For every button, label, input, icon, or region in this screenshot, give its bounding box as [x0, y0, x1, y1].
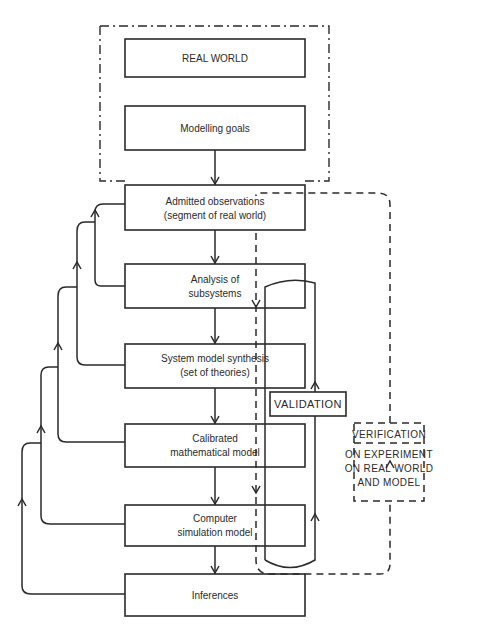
box-computer-simulation: Computer simulation model: [125, 505, 305, 546]
feedback-lines: [18, 204, 125, 594]
box-inferences: Inferences: [125, 574, 305, 616]
box-modelling-goals-label: Modelling goals: [180, 123, 250, 134]
box-computer-simulation-line1: Computer: [193, 513, 238, 524]
box-system-model-synthesis-line2: (set of theories): [180, 367, 249, 378]
verification-line3: AND MODEL: [357, 477, 420, 488]
box-admitted-observations-line1: Admitted observations: [166, 196, 265, 207]
box-system-model-synthesis-line1: System model synthesis: [161, 353, 269, 364]
box-analysis-subsystems-line2: subsystems: [189, 288, 242, 299]
box-inferences-label: Inferences: [192, 590, 239, 601]
box-real-world-label: REAL WORLD: [182, 53, 248, 64]
box-modelling-goals: Modelling goals: [125, 106, 305, 150]
verification-line1: ON EXPERIMENT: [345, 449, 433, 460]
box-calibrated-model-line2: mathematical model: [170, 447, 259, 458]
box-computer-simulation-line2: simulation model: [177, 527, 252, 538]
modelling-process-diagram: REAL WORLD Modelling goals Admitted obse…: [0, 0, 479, 632]
box-analysis-subsystems: Analysis of subsystems: [125, 264, 305, 308]
box-system-model-synthesis: System model synthesis (set of theories): [125, 344, 305, 388]
box-admitted-observations: Admitted observations (segment of real w…: [125, 185, 305, 230]
box-real-world: REAL WORLD: [125, 39, 305, 77]
box-calibrated-model: Calibrated mathematical model: [125, 424, 305, 467]
box-admitted-observations-line2: (segment of real world): [164, 210, 266, 221]
verification-title: VERIFICATION: [352, 429, 426, 440]
box-analysis-subsystems-line1: Analysis of: [191, 274, 240, 285]
validation-text: VALIDATION: [274, 398, 342, 410]
verification-line2: ON REAL WORLD: [345, 463, 434, 474]
box-calibrated-model-line1: Calibrated: [192, 433, 238, 444]
validation-label: VALIDATION: [270, 392, 346, 416]
